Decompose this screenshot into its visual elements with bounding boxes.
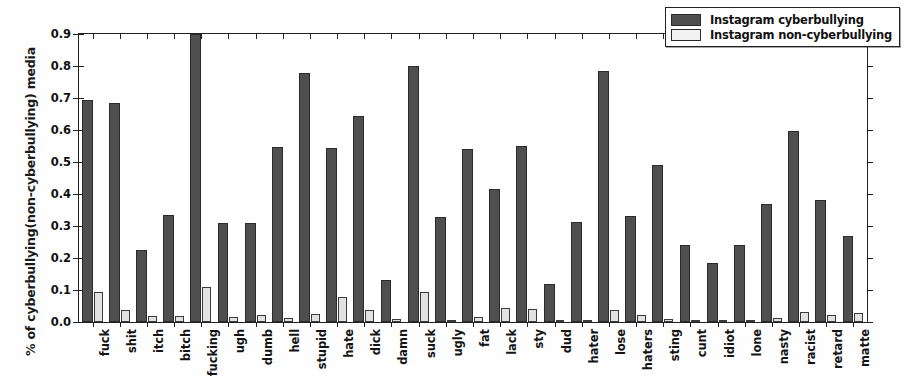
bar-cyberbullying [707,263,718,322]
bar-cyberbullying [136,250,147,322]
bar-group [652,34,679,322]
x-tick-mark [364,322,365,327]
x-tick-label: lone [750,329,764,356]
bar-non-cyberbullying [202,287,211,322]
legend-swatch-cyberbullying [671,14,701,26]
bar-cyberbullying [353,116,364,322]
bar-non-cyberbullying [284,318,293,322]
x-tick-label: haters [641,329,655,370]
bar-group [136,34,163,322]
x-tick-mark [391,322,392,327]
x-tick-label: fuck [98,329,112,356]
x-tick-label: suck [424,329,438,358]
x-tick-label: lack [505,329,519,355]
bar-group [489,34,516,322]
bar-cyberbullying [761,204,772,322]
x-tick-mark [120,322,121,327]
x-tick-label: sty [532,329,546,349]
x-tick-label: bitch [179,329,193,361]
bar-cyberbullying [109,103,120,322]
x-tick-mark [174,322,175,327]
chart-legend: Instagram cyberbullying Instagram non-cy… [665,7,900,47]
bar-non-cyberbullying [800,312,809,322]
bar-non-cyberbullying [827,315,836,322]
bar-cyberbullying [163,215,174,322]
bar-group [109,34,136,322]
x-tick-mark [283,322,284,327]
legend-swatch-non-cyberbullying [671,29,701,41]
bar-group [761,34,788,322]
x-tick-label: retard [831,329,845,369]
bar-non-cyberbullying [528,309,537,322]
x-tick-mark [147,322,148,327]
y-tick-label: 0.4 [51,187,71,201]
bar-group [625,34,652,322]
y-tick-label: 0.6 [51,123,71,137]
bar-chart-figure: % of cyberbullying(non-cyberbullying) me… [0,0,909,388]
y-tick-label: 0.7 [51,91,71,105]
bar-cyberbullying [734,245,745,322]
bar-cyberbullying [516,146,527,322]
y-axis-title: % of cyberbullying(non-cyberbullying) me… [18,26,44,356]
bar-group [843,34,870,322]
bar-non-cyberbullying [338,297,347,322]
x-tick-mark [256,322,257,327]
x-tick-label: lose [614,329,628,355]
legend-item-non-cyberbullying: Instagram non-cyberbullying [671,27,892,42]
bar-group [598,34,625,322]
y-tick-label: 0.1 [51,283,71,297]
x-tick-mark [690,322,691,327]
bar-non-cyberbullying [583,320,592,322]
bar-cyberbullying [381,280,392,322]
x-tick-label: ugh [233,329,247,353]
x-tick-label: dumb [261,329,275,365]
x-tick-mark [446,322,447,327]
x-tick-label: damn [396,329,410,365]
y-tick-label: 0.0 [51,315,71,329]
x-tick-label: shit [125,329,139,353]
x-tick-label: fat [478,329,492,347]
bar-cyberbullying [462,149,473,322]
bar-cyberbullying [571,222,582,322]
legend-label-non-cyberbullying: Instagram non-cyberbullying [710,28,892,42]
bar-cyberbullying [544,284,555,322]
y-tick-label: 0.3 [51,219,71,233]
bar-group [272,34,299,322]
bar-cyberbullying [82,100,93,322]
legend-item-cyberbullying: Instagram cyberbullying [671,12,892,27]
x-tick-mark [853,322,854,327]
y-tick-mark-right [867,322,873,323]
x-tick-label: hate [342,329,356,358]
bar-series-layer [79,34,867,322]
x-tick-mark [473,322,474,327]
x-tick-mark [337,322,338,327]
bar-group [326,34,353,322]
bar-cyberbullying [843,236,854,322]
y-tick-label: 0.2 [51,251,71,265]
x-tick-mark [718,322,719,327]
x-tick-label: fucking [206,329,220,376]
x-tick-mark [419,322,420,327]
bar-cyberbullying [435,217,446,322]
x-tick-mark [500,322,501,327]
x-tick-label: nasty [777,329,791,364]
bar-non-cyberbullying [121,310,130,322]
bar-cyberbullying [598,71,609,322]
bar-non-cyberbullying [420,292,429,322]
x-tick-label: racist [804,329,818,365]
x-tick-mark [201,322,202,327]
x-tick-mark [663,322,664,327]
bar-group [408,34,435,322]
x-tick-mark [527,322,528,327]
bar-non-cyberbullying [392,319,401,322]
bar-non-cyberbullying [664,319,673,322]
bar-group [163,34,190,322]
bar-group [190,34,217,322]
bar-group [680,34,707,322]
x-tick-label: cunt [695,329,709,357]
bar-non-cyberbullying [746,320,755,322]
bar-non-cyberbullying [365,310,374,322]
bar-cyberbullying [680,245,691,322]
bar-group [544,34,571,322]
bar-cyberbullying [299,73,310,322]
